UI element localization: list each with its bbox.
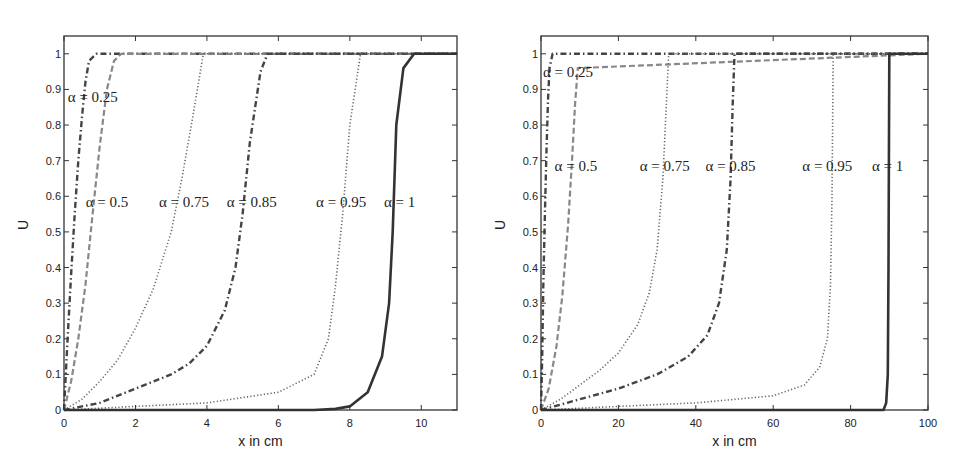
axes-frame — [541, 36, 928, 410]
x-tick-label: 0 — [538, 417, 544, 429]
x-axis-label: x in cm — [712, 433, 756, 449]
x-tick-label: 0 — [61, 417, 67, 429]
alpha-annotation: α = 1 — [872, 158, 903, 174]
series-line-0 — [541, 54, 928, 410]
alpha-annotation: α = 0.25 — [68, 89, 118, 105]
y-tick-label: 0.5 — [523, 226, 538, 238]
alpha-annotation: α = 0.25 — [543, 64, 593, 80]
axes-frame — [64, 36, 457, 410]
y-tick-label: 0.1 — [46, 368, 61, 380]
alpha-annotation: α = 0.5 — [555, 158, 598, 174]
series-line-1 — [541, 54, 928, 410]
x-tick-label: 100 — [919, 417, 937, 429]
y-axis-label: U — [492, 220, 508, 230]
y-tick-label: 0.2 — [46, 333, 61, 345]
y-tick-label: 0 — [55, 404, 61, 416]
series-line-4 — [541, 54, 928, 410]
alpha-annotation: α = 1 — [384, 194, 415, 210]
alpha-annotation: α = 0.95 — [802, 158, 852, 174]
y-tick-label: 0.7 — [523, 155, 538, 167]
alpha-annotation: α = 0.85 — [706, 158, 756, 174]
y-tick-label: 0.4 — [523, 262, 538, 274]
series-line-2 — [541, 54, 928, 410]
alpha-annotation: α = 0.5 — [86, 194, 129, 210]
y-tick-label: 0.5 — [46, 226, 61, 238]
y-tick-label: 0.8 — [523, 119, 538, 131]
x-tick-label: 10 — [415, 417, 427, 429]
y-tick-label: 0.9 — [46, 83, 61, 95]
x-tick-label: 6 — [275, 417, 281, 429]
y-tick-label: 0.3 — [523, 297, 538, 309]
x-tick-label: 8 — [347, 417, 353, 429]
y-tick-label: 0.9 — [523, 83, 538, 95]
figure-svg: 024681000.10.20.30.40.50.60.70.80.91x in… — [0, 0, 954, 469]
left-chart: 024681000.10.20.30.40.50.60.70.80.91x in… — [15, 36, 457, 449]
x-tick-label: 40 — [690, 417, 702, 429]
y-tick-label: 1 — [532, 48, 538, 60]
alpha-annotation: α = 0.95 — [316, 194, 366, 210]
y-tick-label: 0 — [532, 404, 538, 416]
alpha-annotation: α = 0.75 — [159, 194, 209, 210]
y-tick-label: 0.6 — [46, 190, 61, 202]
y-tick-label: 0.4 — [46, 262, 61, 274]
y-tick-label: 0.6 — [523, 190, 538, 202]
x-tick-label: 80 — [844, 417, 856, 429]
x-tick-label: 2 — [132, 417, 138, 429]
series-line-5 — [541, 54, 928, 410]
series-line-3 — [541, 54, 928, 410]
y-tick-label: 0.7 — [46, 155, 61, 167]
y-axis-label: U — [15, 220, 31, 230]
x-tick-label: 60 — [767, 417, 779, 429]
figure: 024681000.10.20.30.40.50.60.70.80.91x in… — [0, 0, 954, 469]
alpha-annotation: α = 0.85 — [227, 194, 277, 210]
x-tick-label: 20 — [612, 417, 624, 429]
y-tick-label: 0.3 — [46, 297, 61, 309]
series-line-5 — [64, 54, 457, 410]
x-tick-label: 4 — [204, 417, 210, 429]
x-axis-label: x in cm — [238, 433, 282, 449]
y-tick-label: 1 — [55, 48, 61, 60]
y-tick-label: 0.1 — [523, 368, 538, 380]
y-tick-label: 0.8 — [46, 119, 61, 131]
right-chart: 02040608010000.10.20.30.40.50.60.70.80.9… — [492, 36, 937, 449]
y-tick-label: 0.2 — [523, 333, 538, 345]
alpha-annotation: α = 0.75 — [640, 158, 690, 174]
